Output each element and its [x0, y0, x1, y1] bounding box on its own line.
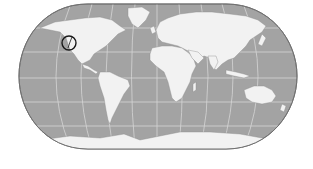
madagascar: [193, 82, 196, 92]
world-map: [0, 0, 313, 169]
